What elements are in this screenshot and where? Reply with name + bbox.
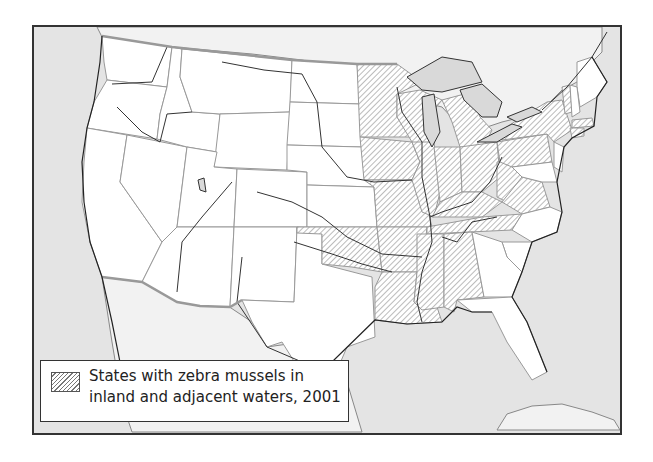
state-north-dakota [290, 60, 360, 104]
state-wyoming [214, 112, 290, 170]
legend-line-1: States with zebra mussels in [89, 366, 344, 387]
state-colorado [234, 169, 307, 227]
hatch-pattern-icon [51, 372, 80, 392]
state-south-dakota [287, 102, 362, 147]
state-iowa [360, 137, 420, 180]
state-new-mexico [230, 227, 297, 307]
state-mississippi [414, 234, 444, 310]
cuba [497, 404, 620, 430]
state-massachusetts [572, 118, 594, 128]
legend-label: States with zebra mussels in inland and … [89, 366, 344, 408]
legend-line-2: inland and adjacent waters, 2001 [89, 387, 344, 408]
legend: States with zebra mussels in inland and … [40, 360, 349, 422]
state-kansas [307, 185, 377, 227]
state-maine [577, 57, 607, 107]
state-ohio [460, 142, 500, 192]
